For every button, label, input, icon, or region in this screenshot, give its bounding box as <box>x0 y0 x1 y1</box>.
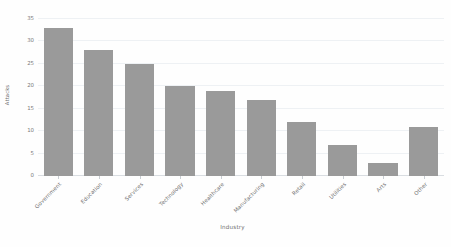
bar-government[interactable] <box>44 28 73 176</box>
y-axis-tick-label: 5 <box>31 150 34 156</box>
x-axis-title-label: Industry <box>206 224 245 230</box>
bar-slot <box>241 19 282 176</box>
x-axis-tick-mark <box>343 176 344 179</box>
bar-services[interactable] <box>125 64 154 176</box>
bar-slot <box>38 19 79 176</box>
x-axis-tick-label-text: Education <box>79 181 103 205</box>
y-axis-tick-label: 15 <box>27 105 34 111</box>
y-axis-tick-label: 30 <box>27 37 34 43</box>
bar-slot <box>403 19 444 176</box>
x-axis-title: Industry <box>0 224 451 230</box>
x-axis-tick-label-text: Utilities <box>328 181 347 200</box>
x-axis-tick-label-text: Manufacturing <box>233 181 266 214</box>
y-axis-tick-label: 35 <box>27 15 34 21</box>
x-axis-tick-label-text: Services <box>123 181 144 202</box>
y-axis-title-label: Attacks <box>4 85 10 105</box>
x-axis-tick-label-text: Other <box>413 181 428 196</box>
bar-slot <box>363 19 404 176</box>
bar-technology[interactable] <box>165 86 194 176</box>
bar-slot <box>200 19 241 176</box>
plot-area: 05101520253035 GovernmentEducationServic… <box>38 19 444 176</box>
x-axis-tick-label-text: Healthcare <box>199 181 225 207</box>
y-axis-tick-label: 0 <box>31 172 34 178</box>
x-axis-tick-label-text: Arts <box>375 181 387 193</box>
x-axis-tick-label-text: Retail <box>291 181 306 196</box>
x-axis-tick-mark <box>140 176 141 179</box>
bar-education[interactable] <box>84 50 113 176</box>
x-axis-tick-label-text: Government <box>34 181 63 210</box>
bar-slot <box>119 19 160 176</box>
y-axis-tick-label: 25 <box>27 60 34 66</box>
bars-layer <box>38 19 444 176</box>
x-axis-tick-label-text: Technology <box>158 181 184 207</box>
bar-other[interactable] <box>409 127 438 176</box>
bar-chart: Attacks 05101520253035 GovernmentEducati… <box>0 0 451 247</box>
bar-slot <box>160 19 201 176</box>
bar-slot <box>322 19 363 176</box>
bar-healthcare[interactable] <box>206 91 235 176</box>
bar-manufacturing[interactable] <box>247 100 276 176</box>
bar-slot <box>79 19 120 176</box>
y-axis-tick-label: 10 <box>27 127 34 133</box>
bar-arts[interactable] <box>368 163 397 176</box>
y-axis-tick-label: 20 <box>27 82 34 88</box>
bar-retail[interactable] <box>287 122 316 176</box>
y-axis-title: Attacks <box>0 0 14 190</box>
